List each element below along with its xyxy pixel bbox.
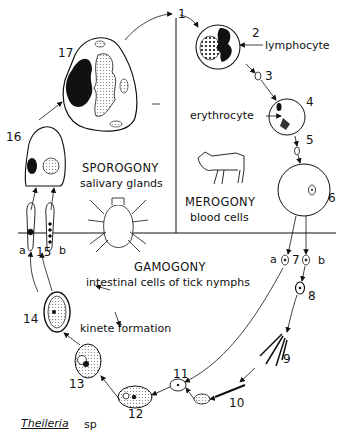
stage-9-label: 9	[283, 353, 291, 365]
stage-16-label: 16	[6, 131, 21, 143]
stage-6-erythrocyte	[278, 164, 330, 216]
gamogony-location: intestinal cells of tick nymphs	[86, 277, 250, 288]
stage-7-label: 7	[292, 254, 300, 266]
organism-name: Theileria	[21, 418, 69, 429]
stage-3-label: 3	[265, 70, 273, 82]
stage-3-merozoite	[255, 72, 261, 80]
sporogony-location: salivary glands	[80, 178, 163, 189]
gamogony-title: GAMOGONY	[134, 262, 206, 274]
stage-12-zygote	[118, 386, 152, 408]
branch-b-left-label: b	[59, 245, 66, 256]
stage-2-lymphocyte	[196, 25, 240, 69]
stage-14-label: 14	[23, 313, 38, 325]
lymphocyte-label: lymphocyte	[265, 40, 330, 51]
stage-13-zygote	[75, 344, 101, 378]
kinete-formation-label: kinete formation	[80, 323, 171, 334]
merogony-title: MEROGONY	[185, 197, 255, 209]
stage-16-cell	[25, 127, 65, 186]
merogony-location: blood cells	[190, 212, 249, 223]
stage-14-kinete	[44, 292, 70, 332]
organism-species: sp	[84, 419, 97, 430]
stage-17-label: 17	[58, 47, 73, 59]
stage-12-label: 12	[128, 408, 143, 420]
branch-b-right-label: b	[318, 255, 325, 266]
erythrocyte-label: erythrocyte	[190, 110, 254, 121]
stage-8-label: 8	[308, 290, 316, 302]
stage-8-gamete	[296, 282, 305, 294]
stage-15-label: 15	[36, 246, 51, 258]
tick-illustration	[88, 198, 148, 252]
stage-2-label: 2	[252, 27, 260, 39]
cow-illustration	[198, 152, 244, 184]
stage-1-label: 1	[178, 8, 186, 20]
branch-a-right-label: a	[270, 254, 277, 265]
sporogony-title: SPOROGONY	[82, 163, 159, 175]
stage-4-label: 4	[306, 96, 314, 108]
branch-a-left-label: a	[19, 245, 26, 256]
stage-17-cell	[63, 38, 137, 131]
stage-4-erythrocyte	[269, 99, 305, 135]
stage-5-merozoite	[295, 147, 300, 155]
stage-11-label: 11	[173, 368, 188, 380]
stage-13-label: 13	[69, 378, 84, 390]
life-cycle-diagram	[0, 0, 344, 442]
stage-6-label: 6	[328, 192, 336, 204]
stage-5-label: 5	[306, 134, 314, 146]
stage-10-label: 10	[229, 397, 244, 409]
